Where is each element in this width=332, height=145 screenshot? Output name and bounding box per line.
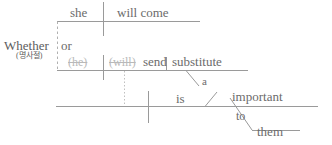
middle-clause-object: substitute xyxy=(172,55,222,68)
middle-clause-verb: send xyxy=(143,55,167,68)
preposition: to xyxy=(236,110,245,122)
preposition-object: them xyxy=(257,125,283,138)
middle-clause-auxiliary: (will) xyxy=(109,56,136,68)
main-clause-complement: important xyxy=(232,90,283,103)
subordinator-note: (명사절) xyxy=(16,52,42,60)
object-article: a xyxy=(202,76,207,87)
coordinating-conjunction: or xyxy=(61,39,72,52)
article-diagonal-a xyxy=(186,71,199,87)
main-clause-verb: is xyxy=(176,92,185,105)
top-clause-predicate: will come xyxy=(117,6,169,19)
predicate-complement-slant xyxy=(205,92,217,107)
middle-clause-subject: (he) xyxy=(68,56,87,68)
sentence-diagram: she will come Whether (명사절) or (he) (wil… xyxy=(0,0,332,145)
top-clause-subject: she xyxy=(70,6,87,19)
